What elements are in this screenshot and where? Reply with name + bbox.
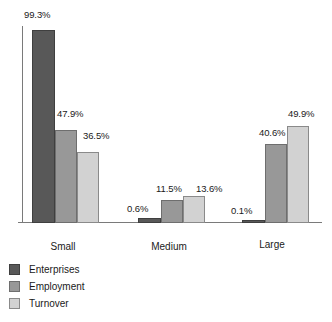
bar-large-employment[interactable]	[265, 144, 287, 223]
bar-large-enterprises[interactable]	[242, 220, 265, 223]
bar-medium-turnover[interactable]	[183, 196, 205, 223]
employment-swatch-icon	[9, 281, 20, 292]
legend-item-employment[interactable]: Employment	[9, 278, 169, 295]
value-label-small-enterprises: 99.3%	[24, 9, 50, 20]
value-label-small-employment: 47.9%	[57, 108, 83, 119]
value-label-large-turnover: 49.9%	[288, 108, 314, 119]
legend-label-employment: Employment	[29, 281, 85, 293]
bar-medium-enterprises[interactable]	[138, 218, 161, 223]
bar-medium-employment[interactable]	[161, 200, 183, 223]
bar-small-turnover[interactable]	[77, 152, 99, 223]
plot-area: 99.3% 47.9% 36.5% 0.6% 11.5% 13.6% 0.1% …	[0, 0, 332, 232]
turnover-swatch-icon	[9, 298, 20, 309]
legend-item-enterprises[interactable]: Enterprises	[9, 261, 169, 278]
value-label-large-enterprises: 0.1%	[231, 205, 252, 216]
bar-small-employment[interactable]	[55, 130, 77, 223]
grouped-bar-chart: 99.3% 47.9% 36.5% 0.6% 11.5% 13.6% 0.1% …	[0, 0, 332, 322]
x-axis-label-medium: Medium	[151, 241, 187, 253]
value-label-medium-turnover: 13.6%	[196, 183, 222, 194]
legend-label-enterprises: Enterprises	[29, 264, 80, 276]
value-label-large-employment: 40.6%	[259, 127, 285, 138]
value-label-small-turnover: 36.5%	[83, 130, 109, 141]
x-axis-label-large: Large	[259, 239, 285, 251]
enterprises-swatch-icon	[9, 264, 20, 275]
legend-label-turnover: Turnover	[29, 298, 69, 310]
bar-large-turnover[interactable]	[287, 126, 309, 223]
value-label-medium-employment: 11.5%	[156, 183, 182, 194]
chart-legend: Enterprises Employment Turnover	[9, 261, 169, 312]
value-label-medium-enterprises: 0.6%	[127, 203, 148, 214]
legend-item-turnover[interactable]: Turnover	[9, 295, 169, 312]
bar-small-enterprises[interactable]	[32, 30, 55, 223]
x-axis-label-small: Small	[50, 241, 75, 253]
